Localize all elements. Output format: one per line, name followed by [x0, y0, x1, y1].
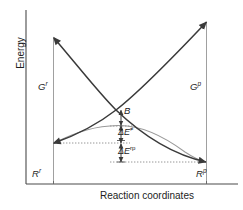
activation-energy-sup: ≠	[130, 125, 133, 132]
g-product-sup: p	[197, 80, 201, 87]
reaction-energy-base: ΔE	[118, 146, 130, 156]
energy-diagram-figure: Energy Reaction coordinates Gr Gp Rr Rp …	[0, 0, 243, 210]
y-axis-title: Energy	[16, 18, 26, 88]
g-reactant-label: Gr	[38, 82, 48, 92]
g-product-label: Gp	[190, 82, 201, 92]
coupling-b-base: B	[124, 105, 130, 116]
r-reactant-sup: r	[39, 167, 41, 174]
reaction-energy-sup: rp	[130, 144, 135, 151]
coupling-b-label: B	[124, 106, 130, 116]
r-product-label: Rp	[196, 169, 206, 179]
r-product-base: R	[196, 168, 203, 179]
r-product-sup: p	[203, 167, 207, 174]
activation-energy-label: ΔE≠	[118, 128, 133, 137]
r-reactant-label: Rr	[32, 169, 41, 179]
activation-energy-base: ΔE	[118, 127, 130, 137]
r-reactant-base: R	[32, 168, 39, 179]
g-reactant-sup: r	[45, 80, 47, 87]
reaction-energy-label: ΔErp	[118, 147, 135, 156]
x-axis-title: Reaction coordinates	[100, 191, 194, 201]
